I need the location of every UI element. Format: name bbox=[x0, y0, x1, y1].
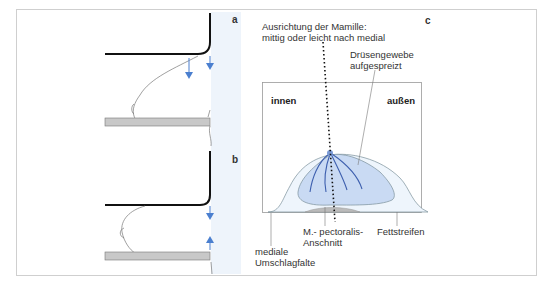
panel-label-c: c bbox=[425, 15, 431, 26]
lower-plate-a bbox=[105, 118, 210, 126]
upper-plate-a bbox=[105, 13, 210, 54]
panel-label-b: b bbox=[232, 154, 238, 165]
upper-plate-b bbox=[105, 151, 210, 205]
nipple-alignment-label: Ausrichtung der Mamille: bbox=[262, 21, 367, 32]
pectoralis-label: M.- pectoralis- bbox=[303, 226, 363, 237]
panel-b-drawing bbox=[105, 151, 214, 274]
pectoralis-label-2: Anschnitt bbox=[303, 237, 342, 248]
fold-label: mediale bbox=[255, 246, 288, 257]
glandular-label: Drüsengewebe bbox=[350, 49, 414, 60]
arrow-down-icon bbox=[185, 56, 214, 79]
nipple-alignment-label-2: mittig oder leicht nach medial bbox=[262, 32, 385, 43]
shaded-band bbox=[211, 12, 241, 274]
panel-a-drawing bbox=[105, 13, 214, 146]
panel-label-a: a bbox=[232, 14, 238, 25]
inner-label: innen bbox=[271, 95, 296, 106]
figure-frame bbox=[17, 10, 537, 276]
lower-plate-b bbox=[105, 252, 210, 260]
panel-c-drawing bbox=[263, 42, 429, 246]
fold-label-2: Umschlagfalte bbox=[255, 257, 315, 268]
fat-label: Fettstreifen bbox=[377, 226, 425, 237]
outer-label: außen bbox=[387, 95, 415, 106]
glandular-label-2: aufgespreizt bbox=[350, 60, 402, 71]
